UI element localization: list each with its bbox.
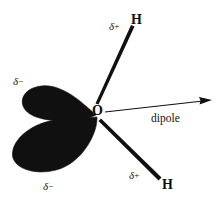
hydrogen-atom-bottom-label: H	[162, 178, 173, 192]
lone-pair-lobe-lower	[12, 117, 97, 172]
dipole-arrow-head	[199, 97, 212, 105]
oxygen-atom-label: O	[92, 104, 103, 118]
delta-plus-bottom-label: δ+	[129, 170, 139, 181]
charge-sign: −	[48, 181, 53, 191]
hydrogen-atom-top-label: H	[131, 13, 142, 27]
charge-sign: +	[114, 21, 119, 31]
water-dipole-diagram: O H H δ+ δ+ δ− δ− dipole	[0, 0, 221, 203]
charge-sign: −	[18, 76, 23, 86]
lone-pair-lobe-upper	[22, 86, 96, 121]
dipole-arrow-label: dipole	[151, 113, 180, 125]
delta-minus-top-label: δ−	[13, 76, 23, 87]
dipole-arrow-shaft	[105, 101, 203, 112]
bond-o-h-top	[96, 25, 135, 105]
delta-plus-top-label: δ+	[109, 21, 119, 32]
charge-sign: +	[134, 170, 139, 180]
delta-minus-bottom-label: δ−	[43, 181, 53, 192]
